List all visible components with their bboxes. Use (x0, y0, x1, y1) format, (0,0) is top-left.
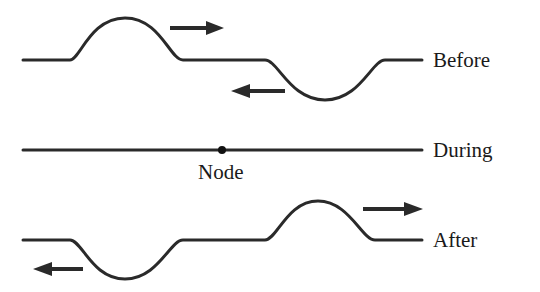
after-label: After (433, 230, 477, 251)
node-point-icon (218, 146, 226, 154)
during-label: During (433, 140, 493, 161)
after-arrow-left-icon (33, 262, 83, 276)
during-row (23, 146, 422, 154)
before-arrow-right-icon (170, 21, 224, 35)
after-row (23, 201, 423, 279)
before-label: Before (433, 50, 490, 71)
before-row (23, 18, 422, 100)
before-wave (23, 18, 422, 100)
after-arrow-right-icon (363, 202, 423, 216)
before-arrow-left-icon (231, 84, 285, 98)
node-label: Node (198, 162, 244, 183)
